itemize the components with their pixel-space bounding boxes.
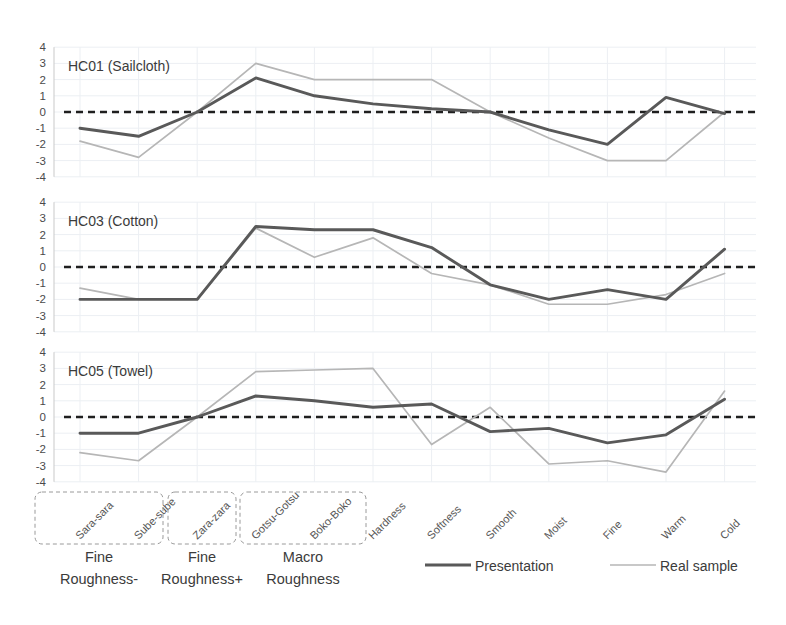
panel-title-hc05: HC05 (Towel) [68,363,153,379]
y-axis-tick-label: 1 [40,245,46,257]
x-axis-category-label: Sara-sara [73,498,116,541]
category-group-label-line1: Macro [283,549,323,565]
multi-panel-line-chart: 43210-1-2-3-4HC01 (Sailcloth)43210-1-2-3… [0,0,786,625]
series-line-presentation [80,396,725,443]
y-axis-tick-label: 2 [40,379,46,391]
legend-label: Real sample [660,558,738,574]
y-axis-tick-label: 2 [40,229,46,241]
y-axis-tick-label: -2 [36,443,46,455]
figure-container: 43210-1-2-3-4HC01 (Sailcloth)43210-1-2-3… [0,0,786,625]
x-axis-category-label: Smooth [483,506,518,541]
category-group-label-line2: Roughness- [60,571,138,587]
y-axis-tick-label: -2 [36,293,46,305]
y-axis-tick-label: -2 [36,138,46,150]
legend: PresentationReal sample [425,558,738,574]
x-axis-category-label: Cold [718,517,742,541]
y-axis-tick-label: 2 [40,74,46,86]
y-axis-tick-label: 1 [40,395,46,407]
y-axis-tick-label: -3 [36,155,46,167]
y-axis-tick-label: -1 [36,427,46,439]
y-axis-tick-label: 4 [40,346,47,358]
y-axis-tick-label: 3 [40,57,46,69]
x-axis-category-label: Hardness [366,499,408,541]
x-axis-category-label: Gotsu-Gotsu [249,489,302,542]
panel-hc01: 43210-1-2-3-4HC01 (Sailcloth) [36,41,756,183]
x-axis-category-label: Moist [542,514,569,541]
y-axis-tick-label: 3 [40,212,46,224]
x-axis-category-label: Boko-Boko [307,495,354,542]
panel-title-hc03: HC03 (Cotton) [68,213,158,229]
y-axis-tick-label: 3 [40,362,46,374]
y-axis-tick-label: -4 [36,476,47,488]
y-axis-tick-label: 0 [40,411,46,423]
legend-label: Presentation [475,558,554,574]
series-line-real-sample [80,368,725,472]
series-line-presentation [80,227,725,300]
category-group-label-line1: Fine [188,549,216,565]
panel-hc05: 43210-1-2-3-4HC05 (Towel) [36,346,756,488]
panel-hc03: 43210-1-2-3-4HC03 (Cotton) [36,196,756,338]
y-axis-tick-label: 4 [40,196,47,208]
panel-title-hc01: HC01 (Sailcloth) [68,58,170,74]
x-axis-labels-layer: Sara-saraSube-subeZara-zaraGotsu-GotsuBo… [73,489,742,542]
y-axis-tick-label: 0 [40,106,46,118]
y-axis-tick-label: -3 [36,310,46,322]
legend-item-presentation[interactable]: Presentation [425,558,554,574]
x-axis-category-label: Sube-sube [132,495,178,541]
y-axis-tick-label: -1 [36,277,46,289]
panels-layer: 43210-1-2-3-4HC01 (Sailcloth)43210-1-2-3… [36,41,756,488]
y-axis-tick-label: 4 [40,41,47,53]
y-axis-tick-label: -4 [36,171,47,183]
y-axis-tick-label: 1 [40,90,46,102]
legend-item-real-sample[interactable]: Real sample [610,558,738,574]
x-axis-category-label: Fine [600,518,624,542]
category-group-label-line2: Roughness+ [161,571,243,587]
y-axis-tick-label: -1 [36,122,46,134]
x-axis-category-label: Softness [425,502,464,541]
x-axis-category-label: Warm [659,512,688,541]
y-axis-tick-label: 0 [40,261,46,273]
y-axis-tick-label: -3 [36,460,46,472]
x-axis-category-label: Zara-zara [190,499,233,542]
category-group-label-line1: Fine [85,549,113,565]
category-group-label-line2: Roughness [266,571,339,587]
y-axis-tick-label: -4 [36,326,47,338]
